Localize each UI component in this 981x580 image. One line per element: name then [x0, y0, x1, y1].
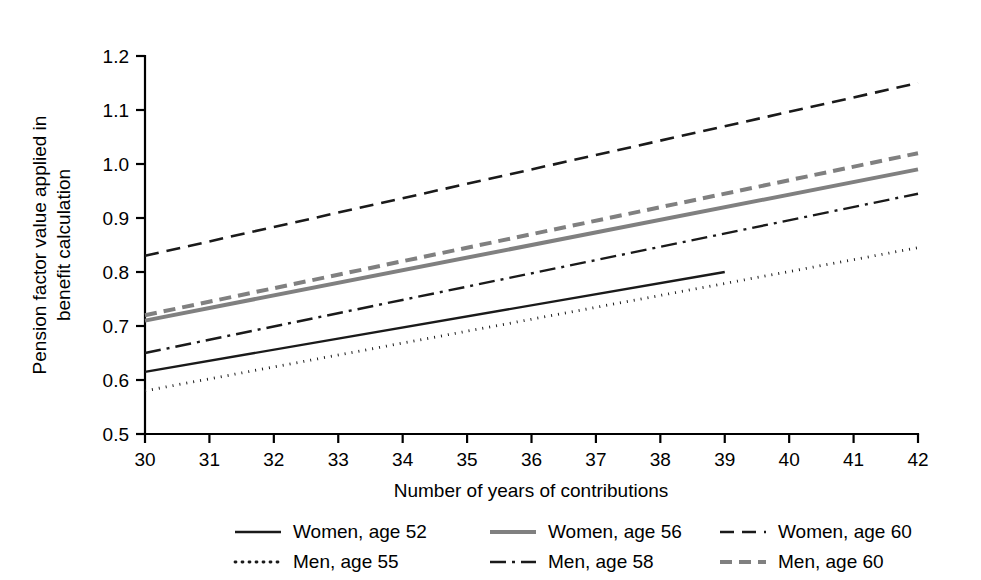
x-tick-label: 40 — [779, 449, 800, 470]
x-tick-label: 30 — [134, 449, 155, 470]
legend-label: Men, age 58 — [548, 551, 654, 572]
legend-label: Men, age 55 — [293, 551, 399, 572]
line-chart: 0.50.60.70.80.91.01.11.2 303132333435363… — [0, 0, 981, 580]
y-tick-label: 0.6 — [103, 370, 129, 391]
y-tick-label: 1.1 — [103, 100, 129, 121]
legend-label: Women, age 56 — [548, 521, 682, 542]
x-tick-label: 38 — [650, 449, 671, 470]
legend-label: Women, age 60 — [778, 521, 912, 542]
x-tick-label: 33 — [328, 449, 349, 470]
x-tick-label: 34 — [392, 449, 414, 470]
y-tick-label: 1.2 — [103, 46, 129, 67]
x-tick-label: 41 — [843, 449, 864, 470]
legend-label: Women, age 52 — [293, 521, 427, 542]
x-tick-label: 36 — [521, 449, 542, 470]
y-tick-label: 0.8 — [103, 262, 129, 283]
x-tick-label: 37 — [585, 449, 606, 470]
y-tick-label: 0.7 — [103, 316, 129, 337]
x-tick-label: 32 — [263, 449, 284, 470]
chart-figure: 0.50.60.70.80.91.01.11.2 303132333435363… — [0, 0, 981, 580]
x-tick-label: 31 — [199, 449, 220, 470]
y-tick-label: 0.5 — [103, 424, 129, 445]
y-tick-label: 0.9 — [103, 208, 129, 229]
y-axis-title-line1: Pension factor value applied in — [29, 116, 50, 375]
x-tick-label: 35 — [457, 449, 478, 470]
x-tick-label: 39 — [714, 449, 735, 470]
legend-label: Men, age 60 — [778, 551, 884, 572]
x-axis-title: Number of years of contributions — [394, 480, 669, 501]
y-axis-title-line2: benefit calculation — [53, 169, 74, 321]
y-tick-label: 1.0 — [103, 154, 129, 175]
x-tick-label: 42 — [907, 449, 928, 470]
